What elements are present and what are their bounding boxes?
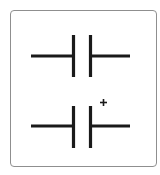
capacitor-symbols-diagram (0, 0, 160, 175)
plus-polarity-icon (100, 99, 107, 106)
capacitor-non-polarized-symbol (31, 35, 130, 77)
capacitor-polarized-symbol (31, 99, 130, 148)
